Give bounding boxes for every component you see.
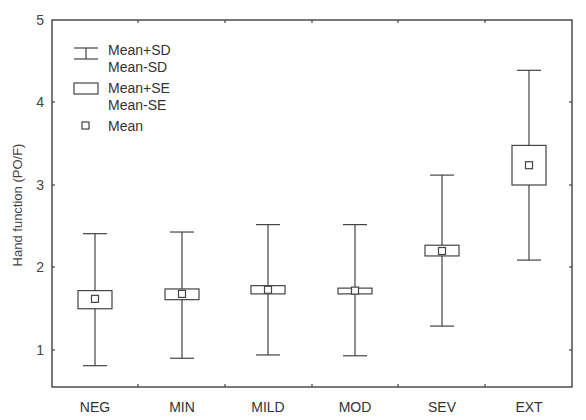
y-tick-3: 3 — [36, 177, 44, 193]
mean-marker — [92, 295, 99, 302]
legend-se-top: Mean+SE — [108, 80, 170, 96]
box-ext — [512, 70, 546, 260]
y-axis-title: Hand function (PO/F) — [10, 144, 25, 267]
box-series — [78, 70, 546, 365]
legend: Mean+SD Mean-SD Mean+SE Mean-SE Mean — [74, 42, 171, 134]
mean-marker — [179, 290, 186, 297]
y-tick-5: 5 — [36, 12, 44, 28]
box-mild — [251, 225, 285, 355]
mean-marker — [265, 286, 272, 293]
legend-mean-icon — [82, 122, 89, 129]
box-min — [165, 232, 199, 358]
x-label-mod: MOD — [339, 399, 372, 415]
plot-frame — [52, 20, 572, 387]
mean-marker — [352, 287, 359, 294]
mean-marker — [526, 162, 533, 169]
y-tick-2: 2 — [36, 259, 44, 275]
legend-sd-top: Mean+SD — [108, 42, 171, 58]
box-plot-chart: 1 2 3 4 5 Hand function (PO/F) NEG MIN M… — [0, 0, 586, 420]
box-mod — [338, 225, 372, 356]
x-label-neg: NEG — [80, 399, 110, 415]
box-neg — [78, 234, 112, 366]
y-tick-4: 4 — [36, 94, 44, 110]
legend-se-icon — [74, 83, 98, 94]
legend-sd-icon — [74, 48, 98, 59]
x-label-sev: SEV — [428, 399, 457, 415]
legend-mean: Mean — [108, 118, 143, 134]
legend-se-bottom: Mean-SE — [108, 97, 166, 113]
y-tick-1: 1 — [36, 342, 44, 358]
x-label-min: MIN — [169, 399, 195, 415]
legend-sd-bottom: Mean-SD — [108, 59, 167, 75]
x-label-ext: EXT — [515, 399, 543, 415]
x-label-mild: MILD — [251, 399, 284, 415]
mean-marker — [439, 248, 446, 255]
box-sev — [425, 175, 459, 326]
